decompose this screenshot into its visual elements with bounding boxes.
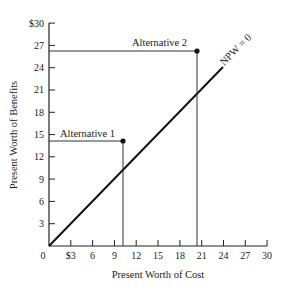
npw-zero-label: NPW = 0 (218, 32, 254, 68)
y-tick-label: $30 (29, 18, 44, 29)
y-tick-label: 12 (34, 151, 44, 162)
x-ticks (71, 240, 267, 246)
alt2-label: Alternative 2 (132, 37, 187, 48)
y-tick-label: 24 (34, 62, 44, 73)
alt2-point (194, 48, 199, 53)
y-axis-title: Present Worth of Benefits (8, 81, 19, 189)
y-tick-label: 27 (34, 40, 44, 51)
x-axis-title: Present Worth of Cost (112, 269, 205, 280)
x-tick-label: 12 (131, 250, 141, 261)
x-tick-label: 9 (112, 250, 117, 261)
y-ticks (49, 23, 55, 224)
y-tick-label: 3 (39, 218, 44, 229)
y-tick-label: 18 (34, 107, 44, 118)
y-tick-label: 15 (34, 129, 44, 140)
alt1-label: Alternative 1 (60, 128, 115, 139)
x-tick-labels: 0 $3 6 9 12 15 18 21 24 27 30 (41, 250, 273, 261)
y-tick-labels: 3 6 9 12 15 18 21 24 27 $30 (29, 18, 44, 229)
x-tick-label: 15 (153, 250, 163, 261)
x-tick-label: $3 (66, 250, 76, 261)
x-tick-label: 21 (197, 250, 207, 261)
x-tick-label: 24 (219, 250, 229, 261)
y-tick-label: 9 (39, 174, 44, 185)
origin-label: 0 (41, 250, 46, 261)
x-tick-label: 18 (175, 250, 185, 261)
chart-canvas: 3 6 9 12 15 18 21 24 27 $30 0 $3 6 9 12 … (0, 0, 285, 292)
x-tick-label: 27 (240, 250, 250, 261)
x-tick-label: 30 (262, 250, 272, 261)
alt1-point (120, 138, 125, 143)
y-tick-label: 21 (34, 84, 44, 95)
x-tick-label: 6 (90, 250, 95, 261)
y-tick-label: 6 (39, 196, 44, 207)
